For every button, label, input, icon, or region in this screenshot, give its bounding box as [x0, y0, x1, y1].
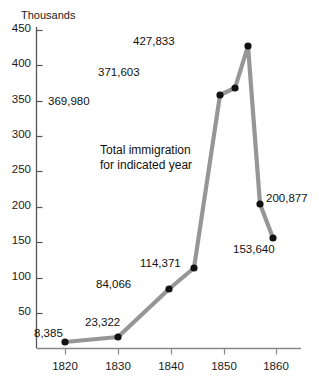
data-point-marker — [190, 264, 197, 271]
data-point-marker — [256, 200, 263, 207]
data-point-marker — [165, 285, 172, 292]
data-point-marker — [231, 84, 238, 91]
point-value-label: 114,371 — [140, 257, 181, 269]
x-tick-label: 1860 — [246, 360, 306, 372]
y-tick-label: 200 — [0, 199, 31, 211]
data-point-marker — [244, 42, 251, 49]
x-tick-label: 1830 — [88, 360, 148, 372]
y-tick-marks — [37, 31, 43, 314]
y-tick-label: 350 — [0, 93, 31, 105]
annotation-line-1: Total immigration — [100, 143, 192, 158]
axes — [37, 27, 302, 355]
y-axis-unit-label: Thousands — [21, 9, 75, 21]
y-tick-label: 300 — [0, 128, 31, 140]
point-value-label: 200,877 — [266, 192, 308, 204]
data-point-marker — [114, 333, 121, 340]
immigration-line-chart: Thousands 45040035030025020015010050 182… — [0, 0, 319, 385]
chart-annotation: Total immigration for indicated year — [100, 143, 192, 173]
point-value-label: 369,980 — [48, 95, 90, 107]
point-value-label: 23,322 — [85, 316, 120, 328]
y-tick-label: 100 — [0, 270, 31, 282]
point-value-label: 84,066 — [96, 278, 131, 290]
point-value-label: 371,603 — [98, 66, 140, 78]
data-point-marker — [61, 338, 68, 345]
y-tick-label: 250 — [0, 163, 31, 175]
y-tick-label: 450 — [0, 22, 31, 34]
point-value-label: 427,833 — [133, 35, 175, 47]
point-value-label: 153,640 — [233, 243, 275, 255]
y-tick-label: 50 — [0, 305, 31, 317]
data-point-markers — [61, 42, 276, 345]
x-tick-label: 1850 — [194, 360, 254, 372]
x-tick-label: 1840 — [141, 360, 201, 372]
x-tick-marks — [66, 349, 277, 355]
annotation-line-2: for indicated year — [100, 158, 192, 173]
y-tick-label: 150 — [0, 234, 31, 246]
x-tick-label: 1820 — [35, 360, 95, 372]
data-point-marker — [216, 91, 223, 98]
immigration-trend-line — [65, 46, 273, 342]
y-tick-label: 400 — [0, 57, 31, 69]
point-value-label: 8,385 — [34, 327, 63, 339]
data-point-marker — [269, 234, 276, 241]
